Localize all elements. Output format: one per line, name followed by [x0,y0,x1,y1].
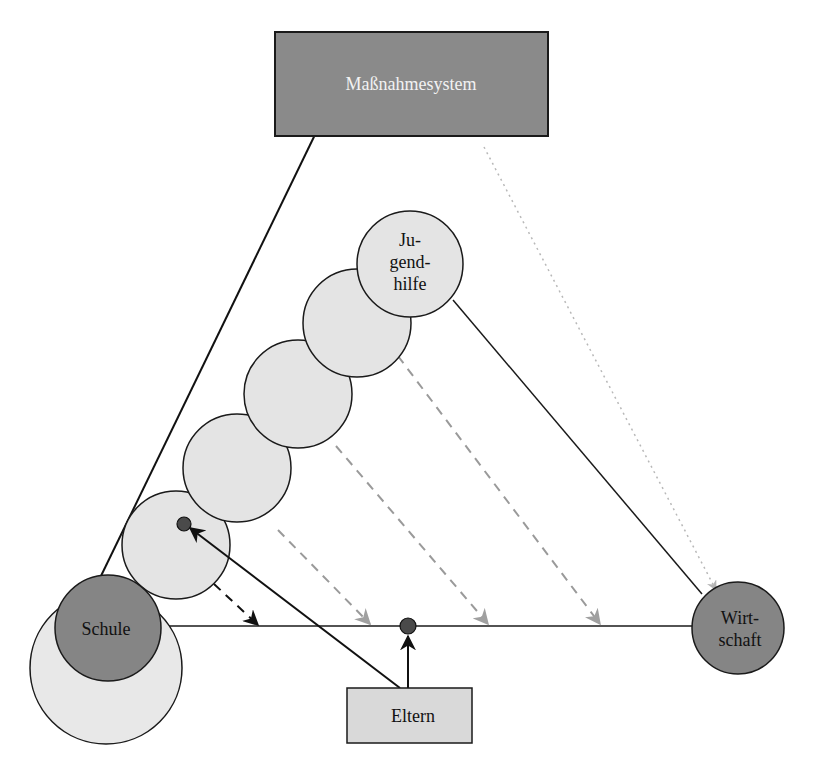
circle1-dot [177,517,191,531]
dashed-arrow-circle-3 [336,446,488,624]
eltern-to-circle1-arrow [190,528,400,688]
jugendhilfe-label-line-1: Ju- [399,230,421,250]
jugendhilfe-wirtschaft-line [453,300,702,594]
dashed-arrow-circle-2 [278,530,370,624]
schule-label: Schule [82,619,131,639]
massnahmesystem-label: Maßnahmesystem [346,74,477,94]
wirtschaft-label-line-2: schaft [719,630,762,650]
massnahme-to-wirtschaft-dotted-arrow [484,147,716,590]
eltern-label: Eltern [391,706,435,726]
jugendhilfe-label-line-2: gend- [390,252,431,272]
diagram-canvas: Maßnahmesystem Ju- gend- hilfe Schule Wi… [0,0,830,769]
wirtschaft-label-line-1: Wirt- [721,608,759,628]
wirtschaft-node[interactable] [692,582,784,674]
jugendhilfe-label-line-3: hilfe [394,274,427,294]
dashed-arrow-circle-1 [214,584,258,625]
line-dot [400,618,416,634]
dashed-arrow-circle-4 [398,356,600,624]
